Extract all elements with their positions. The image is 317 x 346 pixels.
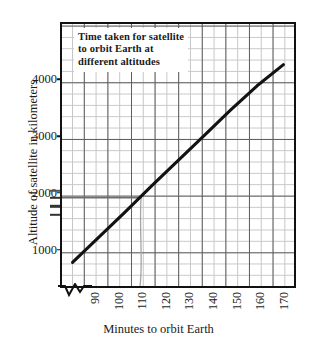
x-tick-label-150: 150 bbox=[229, 292, 244, 310]
x-tick-label-110: 110 bbox=[135, 292, 150, 310]
x-axis-title: Minutes to orbit Earth bbox=[0, 322, 317, 337]
plot-area: Time taken for satellite to orbit Earth … bbox=[60, 22, 296, 288]
chart-title-line-1: Time taken for satellite bbox=[78, 31, 184, 43]
chart-title: Time taken for satellite to orbit Earth … bbox=[74, 28, 188, 72]
x-tick-label-130: 130 bbox=[182, 292, 197, 310]
x-tick-label-170: 170 bbox=[276, 292, 291, 310]
read-off-vertical-line bbox=[140, 198, 141, 286]
x-tick-label-100: 100 bbox=[111, 292, 126, 310]
x-tick-label-90: 90 bbox=[88, 292, 103, 304]
x-tick-label-160: 160 bbox=[253, 292, 268, 310]
y-axis-title: Altitude of satellite in kilometers bbox=[26, 38, 41, 288]
chart-title-line-3: different altitudes bbox=[78, 56, 184, 68]
x-axis: 90 100 110 120 130 140 150 160 170 bbox=[60, 290, 296, 324]
data-line-satellite bbox=[73, 65, 284, 263]
chart-title-line-2: to orbit Earth at bbox=[78, 43, 184, 55]
x-tick-label-140: 140 bbox=[206, 292, 221, 310]
x-tick-label-120: 120 bbox=[158, 292, 173, 310]
chart-figure: 1000 2000 3000 4000 Altitude of satellit… bbox=[0, 0, 317, 346]
